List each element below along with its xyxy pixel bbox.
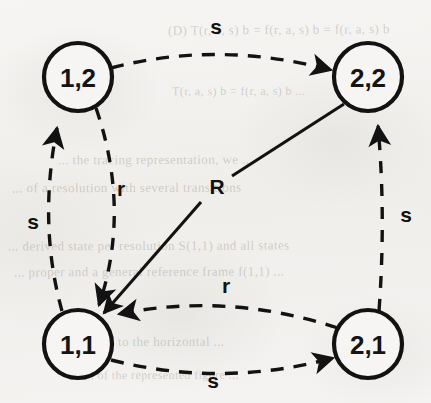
node-2-1[interactable]: 2,1 [334, 310, 402, 378]
edge-12-to-11: r [96, 108, 125, 305]
edge-21-to-22-path [378, 126, 382, 311]
edge-12-to-22: s [111, 15, 331, 70]
edge-22-to-11-path-upper [232, 104, 344, 176]
edge-11-to-21-path [111, 358, 333, 374]
node-1-1[interactable]: 1,1 [44, 310, 112, 378]
edge-11-to-12-path [49, 128, 62, 311]
edge-21-to-22: s [378, 126, 412, 311]
edge-label-11-to-21: s [207, 369, 219, 392]
edge-label-21-to-11: r [222, 274, 230, 297]
node-2-1-label: 2,1 [350, 330, 386, 360]
edge-12-to-11-path [96, 108, 114, 305]
edge-11-to-21: s [111, 358, 333, 392]
edge-12-to-22-path [111, 54, 331, 70]
edge-label-12-to-22: s [210, 15, 222, 38]
edge-label-11-to-12: s [27, 210, 39, 233]
node-1-2-label: 1,2 [60, 63, 96, 93]
node-2-2[interactable]: 2,2 [334, 43, 402, 111]
diagram-canvas: (D) T(r, a, s) b = f(r, a, s) b = f(r, a… [0, 0, 431, 403]
node-2-2-label: 2,2 [350, 63, 386, 93]
edge-21-to-11: r [119, 274, 338, 328]
edge-11-to-12: s [27, 128, 62, 311]
node-1-1-label: 1,1 [60, 330, 96, 360]
state-transition-diagram: 2,2 (dashed, arcs slightly upward) --> s… [0, 0, 431, 403]
edge-label-22-to-11: R [209, 175, 224, 198]
edge-21-to-11-path [119, 306, 338, 328]
edge-22-to-11-path-lower [104, 202, 201, 313]
edge-label-12-to-11: r [117, 177, 125, 200]
edge-label-21-to-22: s [400, 203, 412, 226]
node-1-2[interactable]: 1,2 [44, 43, 112, 111]
